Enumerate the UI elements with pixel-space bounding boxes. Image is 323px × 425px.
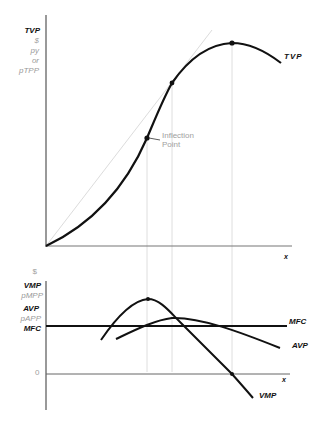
inflection-label-line1: Inflection <box>162 132 194 140</box>
bottom-ylabel-avp: AVP <box>10 305 39 313</box>
production-diagram <box>0 0 323 425</box>
bottom-ylabel-mfc: MFC <box>10 325 41 333</box>
top-ylabel-tvp: TVP <box>18 27 40 35</box>
vmp-max-dot <box>146 297 150 301</box>
avp-curve-label: AVP <box>292 342 308 350</box>
inflection-point-dot <box>144 135 149 140</box>
zero-label: 0 <box>35 369 39 377</box>
top-ylabel-dollar: $ <box>18 37 39 45</box>
bottom-xlabel: x <box>282 376 286 383</box>
inflection-label-line2: Point <box>162 141 180 149</box>
inflection-pointer <box>149 138 160 140</box>
bottom-ylabel-vmp: VMP <box>10 282 41 290</box>
vmp-zero-dot <box>230 372 234 376</box>
top-ylabel-or: or <box>18 57 39 65</box>
vmp-curve-label: VMP <box>259 392 276 400</box>
tvp-curve-label: TVP <box>284 53 303 61</box>
top-panel <box>46 15 292 374</box>
tangent-point-dot <box>170 81 175 86</box>
bottom-ylabel-dollar: $ <box>18 268 37 276</box>
top-xlabel: x <box>284 253 288 260</box>
bottom-ylabel-papp: pAPP <box>10 315 41 323</box>
top-ylabel-py: py <box>18 47 39 55</box>
vmp-curve <box>101 299 253 398</box>
top-ylabel-ptpp: pTPP <box>8 67 39 75</box>
tvp-max-dot <box>229 40 234 45</box>
avp-curve <box>116 318 280 348</box>
mfc-curve-label: MFC <box>289 318 306 326</box>
bottom-ylabel-pmpp: pMPP <box>10 292 43 300</box>
bottom-panel <box>46 281 290 410</box>
